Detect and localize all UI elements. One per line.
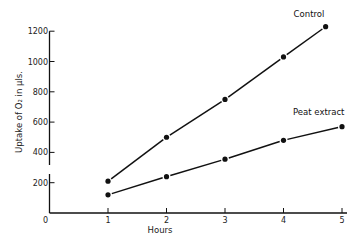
data-point-marker bbox=[222, 97, 227, 102]
data-point-marker bbox=[222, 157, 227, 162]
data-point-marker bbox=[339, 124, 344, 129]
series-line-segment bbox=[170, 160, 221, 175]
series-peat-extract: Peat extract bbox=[105, 107, 345, 198]
x-tick-label: 2 bbox=[164, 216, 169, 225]
series-layer: ControlPeat extract bbox=[105, 9, 345, 198]
y-tick-label: 800 bbox=[33, 88, 48, 97]
x-axis-title: Hours bbox=[148, 225, 173, 235]
data-point-marker bbox=[105, 179, 110, 184]
data-point-marker bbox=[281, 54, 286, 59]
y-tick-label: 600 bbox=[33, 118, 48, 127]
x-tick-label: 0 bbox=[43, 216, 48, 225]
series-label: Control bbox=[294, 9, 325, 19]
y-axis-title: Uptake of O₂ in μls. bbox=[14, 71, 24, 153]
x-tick-label: 5 bbox=[339, 216, 344, 225]
y-tick-label: 1200 bbox=[28, 27, 48, 36]
y-axis: 20040060080010001200 bbox=[28, 27, 55, 213]
data-point-marker bbox=[323, 24, 328, 29]
series-line-segment bbox=[287, 128, 338, 140]
series-line-segment bbox=[170, 102, 222, 136]
data-point-marker bbox=[164, 135, 169, 140]
data-point-marker bbox=[281, 138, 286, 143]
series-line-segment bbox=[287, 29, 323, 55]
series-line-segment bbox=[229, 142, 280, 158]
series-line-segment bbox=[111, 140, 163, 179]
y-tick-label: 400 bbox=[33, 148, 48, 157]
series-line-segment bbox=[228, 59, 280, 97]
x-tick-label: 3 bbox=[222, 216, 227, 225]
y-tick-label: 200 bbox=[33, 179, 48, 188]
line-chart: 20040060080010001200 012345 Uptake of O₂… bbox=[0, 0, 363, 245]
series-control: Control bbox=[105, 9, 328, 184]
data-point-marker bbox=[164, 174, 169, 179]
series-label: Peat extract bbox=[293, 107, 345, 117]
series-line-segment bbox=[112, 178, 163, 194]
x-tick-label: 1 bbox=[105, 216, 110, 225]
x-axis: 012345 bbox=[43, 208, 347, 225]
data-point-marker bbox=[105, 192, 110, 197]
y-tick-label: 1000 bbox=[28, 58, 48, 67]
x-tick-label: 4 bbox=[281, 216, 286, 225]
